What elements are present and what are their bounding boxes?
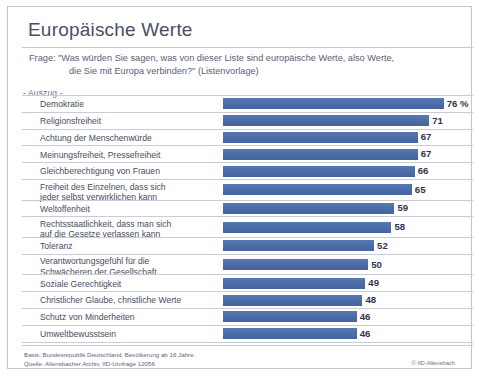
source-text: Quelle: Allensbacher Archiv, IfD-Umfrage…	[24, 359, 194, 368]
question-line-2: die Sie mit Europa verbinden?" (Listenvo…	[29, 65, 459, 78]
question-text: Frage: "Was würden Sie sagen, was von di…	[29, 52, 459, 77]
chart-panel: Europäische Werte Frage: "Was würden Sie…	[7, 6, 472, 369]
value-bar[interactable]	[223, 203, 394, 214]
chart-page: Europäische Werte Frage: "Was würden Sie…	[0, 0, 479, 376]
value-bar[interactable]	[223, 328, 357, 339]
page-title: Europäische Werte	[28, 19, 193, 41]
category-label: Achtung der Menschenwürde	[40, 133, 152, 143]
category-label: Religionsfreiheit	[40, 116, 101, 126]
value-label: 46	[360, 311, 371, 322]
footer-divider	[22, 345, 473, 346]
chart-row[interactable]: Schutz von Minderheiten46	[22, 308, 473, 325]
value-bar[interactable]	[223, 149, 418, 160]
chart-row[interactable]: Meinungsfreiheit, Pressefreiheit67	[22, 145, 473, 162]
chart-row[interactable]: Religionsfreiheit71	[22, 112, 473, 129]
category-label: Soziale Gerechtigkeit	[40, 279, 121, 289]
value-label: 76 %	[447, 98, 469, 109]
value-label: 66	[418, 165, 429, 176]
basis-text: Basis: Bundesrepublik Deutschland, Bevöl…	[24, 350, 194, 359]
value-bar[interactable]	[223, 184, 412, 195]
copyright-text: © IfD-Allensbach	[411, 360, 455, 366]
value-label: 59	[397, 202, 408, 213]
category-label: Meinungsfreiheit, Pressefreiheit	[40, 150, 160, 160]
category-label: Umweltbewusstsein	[40, 329, 116, 339]
chart-row[interactable]: Soziale Gerechtigkeit49	[22, 274, 473, 291]
category-label: Weltoffenheit	[40, 204, 90, 214]
value-bar[interactable]	[223, 222, 391, 233]
category-label: Schutz von Minderheiten	[40, 312, 135, 322]
category-label: Gleichberechtigung von Frauen	[40, 166, 160, 176]
value-label: 50	[371, 259, 382, 270]
category-label: Demokratie	[40, 99, 84, 109]
question-line-1: Frage: "Was würden Sie sagen, was von di…	[29, 53, 394, 63]
value-bar[interactable]	[223, 295, 362, 306]
chart-row[interactable]: Achtung der Menschenwürde67	[22, 129, 473, 146]
value-bar[interactable]	[223, 259, 368, 270]
footnote: Basis: Bundesrepublik Deutschland, Bevöl…	[24, 350, 194, 369]
category-label: Christlicher Glaube, christliche Werte	[40, 295, 181, 305]
title-divider	[22, 47, 473, 48]
value-label: 67	[421, 131, 432, 142]
value-label: 71	[432, 115, 443, 126]
bar-chart: Demokratie76 %Religionsfreiheit71Achtung…	[22, 95, 473, 340]
chart-row[interactable]: Gleichberechtigung von Frauen66	[22, 162, 473, 179]
chart-row[interactable]: Freiheit des Einzelnen, dass sich jeder …	[22, 179, 473, 200]
value-bar[interactable]	[223, 311, 357, 322]
value-bar[interactable]	[223, 278, 365, 289]
category-label: Toleranz	[40, 241, 72, 251]
value-label: 67	[421, 148, 432, 159]
chart-row[interactable]: Weltoffenheit59	[22, 200, 473, 217]
chart-row[interactable]: Rechtsstaatlichkeit, dass man sich auf d…	[22, 216, 473, 237]
value-label: 58	[394, 221, 405, 232]
value-bar[interactable]	[223, 166, 415, 177]
row-divider	[22, 342, 473, 343]
value-label: 52	[377, 240, 388, 251]
value-bar[interactable]	[223, 98, 444, 109]
chart-row[interactable]: Umweltbewusstsein46	[22, 325, 473, 342]
chart-row[interactable]: Christlicher Glaube, christliche Werte48	[22, 291, 473, 308]
value-label: 46	[360, 328, 371, 339]
value-bar[interactable]	[223, 115, 429, 126]
value-label: 48	[365, 294, 376, 305]
chart-row[interactable]: Demokratie76 %	[22, 95, 473, 112]
value-bar[interactable]	[223, 132, 418, 143]
chart-row[interactable]: Toleranz52	[22, 237, 473, 254]
value-label: 65	[415, 184, 426, 195]
value-label: 49	[368, 277, 379, 288]
chart-row[interactable]: Verantwortungsgefühl für die Schwächeren…	[22, 254, 473, 275]
value-bar[interactable]	[223, 240, 374, 251]
